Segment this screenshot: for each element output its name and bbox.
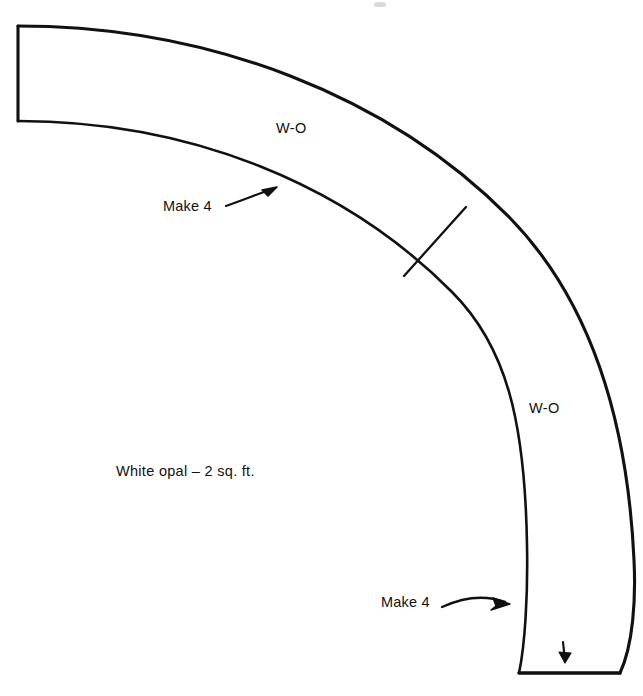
label-make4-top: Make 4 bbox=[163, 198, 212, 214]
arrow-right-curved-icon bbox=[442, 598, 510, 610]
label-material-note: White opal – 2 sq. ft. bbox=[116, 463, 255, 479]
outer-arc-path bbox=[18, 26, 635, 673]
inner-arc-path bbox=[18, 121, 527, 673]
segment-divider-line bbox=[404, 207, 466, 276]
pattern-drawing bbox=[0, 0, 643, 696]
pattern-page: W-O W-O Make 4 Make 4 White opal – 2 sq.… bbox=[0, 0, 643, 696]
arrow-down-icon bbox=[559, 642, 571, 663]
arrow-up-right-icon bbox=[226, 187, 277, 206]
label-make4-bottom: Make 4 bbox=[381, 594, 430, 610]
label-wo-bottom: W-O bbox=[529, 400, 560, 416]
label-wo-top: W-O bbox=[276, 120, 307, 136]
